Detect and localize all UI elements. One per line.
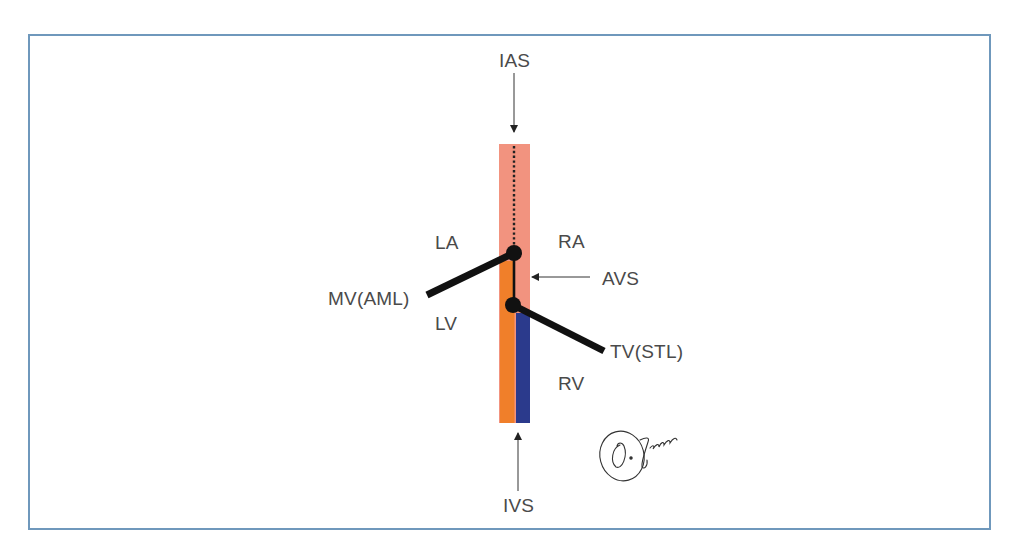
label-tv-stl: TV(STL) bbox=[610, 342, 683, 361]
label-rv: RV bbox=[558, 374, 584, 393]
label-mv-aml: MV(AML) bbox=[328, 289, 410, 308]
label-ra: RA bbox=[558, 232, 585, 251]
label-ias: IAS bbox=[499, 51, 530, 70]
label-la: LA bbox=[435, 233, 459, 252]
mitral-hinge-point bbox=[506, 245, 522, 261]
lv-septum-band bbox=[500, 261, 515, 423]
label-ivs: IVS bbox=[503, 496, 534, 515]
label-lv: LV bbox=[435, 314, 457, 333]
rv-septum-band bbox=[516, 313, 530, 423]
septum-diagram bbox=[0, 0, 1018, 546]
label-avs: AVS bbox=[602, 269, 639, 288]
artist-signature bbox=[594, 426, 677, 486]
tricuspid-hinge-point bbox=[505, 297, 521, 313]
